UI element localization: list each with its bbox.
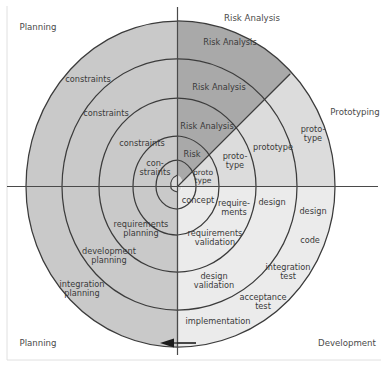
spiral-diagram-svg (0, 0, 388, 372)
spiral-model-diagram: Planning Risk Analysis Prototyping Plann… (0, 0, 388, 372)
